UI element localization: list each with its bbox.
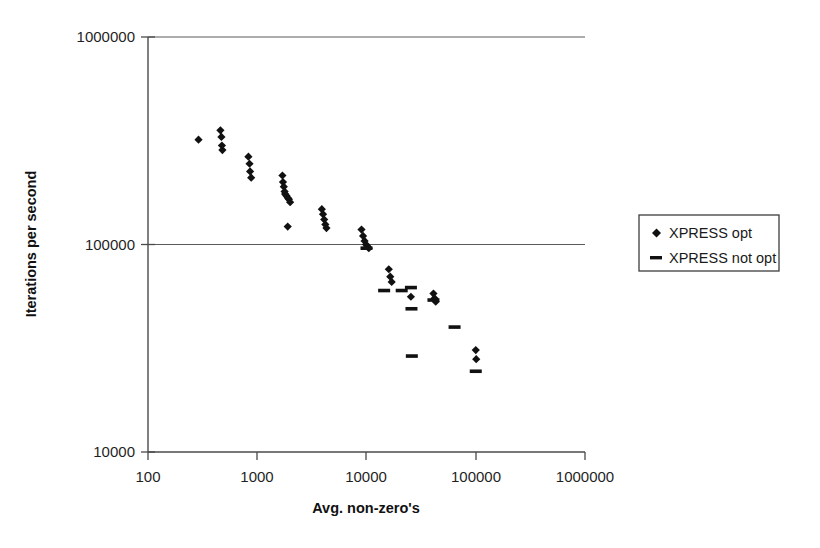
data-point-dash [470,369,482,373]
y-tick-label: 10000 [93,443,135,460]
data-point-dash [406,354,418,358]
data-point-diamond [278,171,286,179]
data-point-diamond [357,225,365,233]
x-tick-label: 10000 [345,468,387,485]
data-point-diamond [247,174,255,182]
data-point-diamond [194,136,202,144]
data-point-dash [361,246,373,250]
data-point-diamond [217,133,225,141]
data-point-diamond [244,153,252,161]
data-point-dash [405,307,417,311]
data-point-diamond [218,146,226,154]
y-tick-labels: 1000000 100000 10000 [77,28,135,460]
data-point-diamond [385,265,393,273]
data-point-diamond [216,126,224,134]
scatter-plot-svg: 1000000 100000 10000 100 1000 10000 1000… [0,0,820,548]
x-tick-label: 100 [135,468,160,485]
dash-marker-icon [650,256,662,259]
x-tick-label: 100000 [451,468,501,485]
data-point-dash [427,298,439,302]
data-series-layer [194,126,481,373]
y-axis-title: Iterations per second [23,171,39,318]
x-tick-marks [148,452,585,460]
data-point-diamond [245,160,253,168]
legend-item-xpress-not-opt[interactable]: XPRESS not opt [650,250,776,266]
series-xpress-not-opt [361,246,482,373]
legend-label: XPRESS opt [669,225,752,241]
x-tick-label: 1000 [240,468,273,485]
x-axis-title: Avg. non-zero's [312,500,420,516]
data-point-diamond [407,293,415,301]
data-point-diamond [472,346,480,354]
data-point-diamond [246,167,254,175]
data-point-dash [378,289,390,293]
data-point-diamond [284,222,292,230]
legend: XPRESS opt XPRESS not opt [639,215,779,271]
chart-container: 1000000 100000 10000 100 1000 10000 1000… [0,0,820,548]
y-tick-label: 1000000 [77,28,135,45]
x-tick-labels: 100 1000 10000 100000 1000000 [135,468,614,485]
data-point-diamond [472,355,480,363]
data-point-dash [405,286,417,290]
data-point-dash [449,325,461,329]
legend-label: XPRESS not opt [669,250,776,266]
y-tick-label: 100000 [85,236,135,253]
x-tick-label: 1000000 [556,468,614,485]
